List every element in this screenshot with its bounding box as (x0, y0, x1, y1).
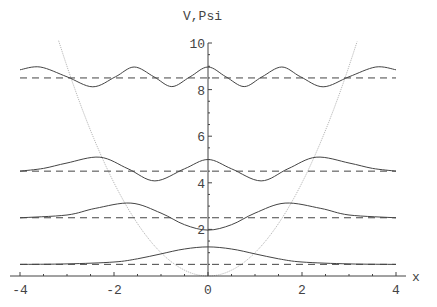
x-tick-label: 2 (298, 283, 306, 298)
x-tick-label: -4 (12, 283, 28, 298)
x-tick-label: 4 (392, 283, 400, 298)
chart: -4-2024 246810 V,Psi x (0, 0, 437, 307)
y-tick-label: 8 (197, 84, 205, 99)
x-axis-title: x (412, 270, 420, 285)
x-tick-label: -2 (106, 283, 122, 298)
y-axis-title: V,Psi (183, 9, 222, 24)
x-tick-label: 0 (204, 283, 212, 298)
y-tick-label: 4 (197, 177, 205, 192)
y-axis: 246810 (189, 37, 212, 276)
y-tick-label: 10 (189, 37, 205, 52)
y-tick-label: 6 (197, 130, 205, 145)
y-tick-label: 2 (197, 223, 205, 238)
